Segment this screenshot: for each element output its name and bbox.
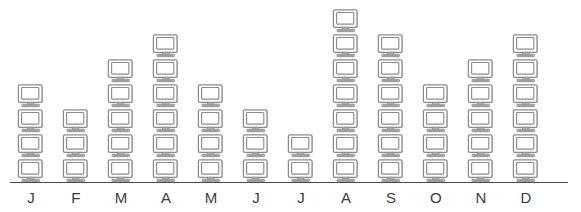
pictogram-column [369,33,413,183]
computer-monitor-icon [332,159,360,183]
pictogram-icon-unit [144,33,188,58]
pictogram-icon-unit [144,158,188,183]
computer-monitor-icon [377,109,405,133]
pictogram-column [324,8,368,183]
computer-monitor-icon [107,59,135,83]
computer-monitor-icon [422,109,450,133]
computer-monitor-icon [512,134,540,158]
pictogram-icon-unit [324,108,368,133]
computer-monitor-icon [467,59,495,83]
pictogram-column [9,83,53,183]
computer-monitor-icon [332,134,360,158]
computer-monitor-icon [512,59,540,83]
pictogram-icon-unit [504,58,548,83]
pictogram-column [504,33,548,183]
pictogram-column [459,58,503,183]
pictogram-icon-unit [234,158,278,183]
pictogram-icon-unit [144,133,188,158]
pictogram-column [144,33,188,183]
computer-monitor-icon [242,109,270,133]
pictogram-icon-unit [324,8,368,33]
chart-plot-area [0,0,581,183]
pictogram-icon-unit [414,133,458,158]
pictogram-icon-unit [414,108,458,133]
computer-monitor-icon [332,34,360,58]
x-axis-tick-label: J [234,186,278,210]
computer-monitor-icon [512,159,540,183]
computer-monitor-icon [332,59,360,83]
computer-monitor-icon [107,109,135,133]
computer-monitor-icon [332,84,360,108]
computer-monitor-icon [467,159,495,183]
x-axis-tick-label: A [144,186,188,210]
pictogram-column [234,108,278,183]
x-axis-tick-label: M [189,186,233,210]
pictogram-icon-unit [369,133,413,158]
computer-monitor-icon [152,34,180,58]
pictogram-icon-unit [369,158,413,183]
computer-monitor-icon [332,109,360,133]
pictogram-icon-unit [99,133,143,158]
x-axis-tick-label: O [414,186,458,210]
pictogram-column [189,83,233,183]
pictogram-icon-unit [54,108,98,133]
pictogram-icon-unit [279,158,323,183]
pictogram-icon-unit [234,133,278,158]
pictogram-icon-unit [9,83,53,108]
computer-monitor-icon [197,134,225,158]
computer-monitor-icon [17,109,45,133]
pictogram-icon-unit [189,83,233,108]
computer-monitor-icon [377,159,405,183]
x-axis-tick-label: A [324,186,368,210]
computer-monitor-icon [197,84,225,108]
computer-monitor-icon [152,84,180,108]
x-axis-tick-label: N [459,186,503,210]
pictogram-icon-unit [459,158,503,183]
x-axis-tick-label: M [99,186,143,210]
pictogram-icon-unit [414,83,458,108]
pictogram-icon-unit [234,108,278,133]
computer-monitor-icon [17,84,45,108]
computer-monitor-icon [467,84,495,108]
computer-monitor-icon [512,109,540,133]
computer-monitor-icon [422,134,450,158]
pictogram-icon-unit [144,108,188,133]
x-axis-tick-label: D [504,186,548,210]
pictogram-icon-unit [459,108,503,133]
computer-monitor-icon [332,9,360,33]
pictogram-icon-unit [324,83,368,108]
pictogram-icon-unit [504,158,548,183]
pictogram-icon-unit [324,33,368,58]
pictogram-icon-unit [459,83,503,108]
pictogram-icon-unit [9,108,53,133]
computer-monitor-icon [377,84,405,108]
pictogram-icon-unit [504,108,548,133]
pictogram-icon-unit [324,58,368,83]
pictogram-icon-unit [369,33,413,58]
pictogram-column [99,58,143,183]
computer-monitor-icon [512,34,540,58]
pictogram-icon-unit [9,133,53,158]
pictogram-column [54,108,98,183]
computer-monitor-icon [377,59,405,83]
pictogram-icon-unit [324,133,368,158]
x-axis-tick-label: F [54,186,98,210]
computer-monitor-icon [467,134,495,158]
x-axis-tick-label: S [369,186,413,210]
pictogram-icon-unit [414,158,458,183]
pictogram-icon-unit [504,83,548,108]
computer-monitor-icon [62,109,90,133]
computer-monitor-icon [107,159,135,183]
pictogram-icon-unit [189,158,233,183]
pictogram-column [414,83,458,183]
pictogram-icon-unit [459,133,503,158]
x-axis-tick-label: J [279,186,323,210]
pictogram-icon-unit [189,108,233,133]
computer-monitor-icon [377,34,405,58]
computer-monitor-icon [422,159,450,183]
pictogram-icon-unit [99,158,143,183]
computer-monitor-icon [17,159,45,183]
pictogram-icon-unit [99,108,143,133]
pictogram-icon-unit [144,83,188,108]
pictogram-icon-unit [54,133,98,158]
